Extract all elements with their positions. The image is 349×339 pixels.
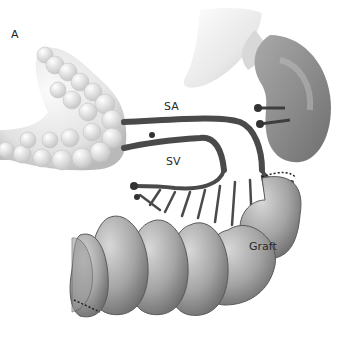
label-sa: SA	[164, 101, 179, 112]
spleen	[254, 35, 331, 162]
stomach	[184, 8, 270, 88]
figure: A SA SV Graft	[0, 0, 349, 339]
panel-label: A	[11, 28, 19, 41]
label-sv: SV	[166, 156, 181, 167]
pancreas	[0, 47, 126, 170]
illustration	[0, 0, 349, 339]
label-graft: Graft	[249, 241, 277, 252]
